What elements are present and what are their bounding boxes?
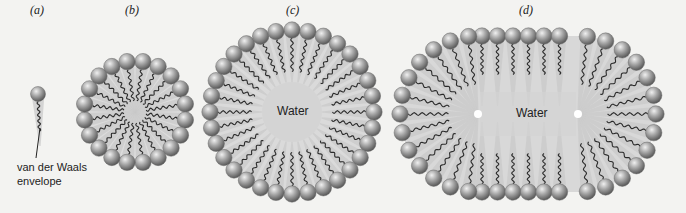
polar-head-group: [268, 23, 284, 39]
water-label-d: Water: [516, 106, 548, 120]
polar-head-group: [360, 72, 376, 88]
polar-head-group: [392, 106, 408, 122]
polar-head-group: [551, 28, 567, 44]
polar-head-group: [536, 184, 552, 200]
polar-head-group: [315, 28, 331, 44]
polar-head-group: [177, 112, 193, 128]
polar-head-group: [394, 87, 410, 103]
polar-head-group: [300, 184, 316, 200]
polar-head-group: [119, 53, 135, 69]
polar-head-group: [150, 149, 166, 165]
polar-head-group: [135, 154, 151, 170]
convergence-point-right: [574, 110, 582, 118]
polar-head-group: [76, 96, 92, 112]
panel-b-micelle: [76, 53, 193, 170]
panel-a-single-lipid: [31, 87, 46, 159]
polar-head-group: [76, 112, 92, 128]
polar-head-group: [300, 23, 316, 39]
annotation-line-2: envelope: [17, 174, 87, 188]
polar-head-group: [489, 28, 505, 44]
polar-head-group: [252, 180, 268, 196]
lipid-aggregates-diagram: [0, 0, 686, 213]
polar-head-group: [329, 172, 345, 188]
annotation-line-1: van der Waals: [17, 160, 87, 174]
polar-head-group: [442, 33, 458, 49]
polar-head-group: [520, 28, 536, 44]
polar-head-group: [360, 135, 376, 151]
polar-head-group: [536, 28, 552, 44]
polar-head-group: [366, 104, 382, 120]
polar-head-group: [579, 183, 595, 199]
polar-head-group: [579, 28, 595, 44]
polar-head-group: [401, 70, 417, 86]
panel-label-c: (c): [286, 3, 299, 18]
polar-head-group: [268, 184, 284, 200]
polar-head-group: [284, 186, 300, 202]
polar-head-group: [489, 184, 505, 200]
polar-head-group: [505, 184, 521, 200]
polar-head-group: [252, 28, 268, 44]
polar-head-group: [442, 179, 458, 195]
polar-head-group: [401, 142, 417, 158]
polar-head-group: [135, 53, 151, 69]
polar-head-group: [119, 154, 135, 170]
diagram-stage: (a) (b) (c) (d) van der Waals envelope W…: [0, 0, 686, 213]
polar-head-group: [639, 70, 655, 86]
polar-head-group: [203, 88, 219, 104]
polar-head-group: [81, 127, 97, 143]
van-der-waals-envelope-label: van der Waals envelope: [17, 160, 87, 188]
panel-label-a: (a): [30, 3, 44, 18]
polar-head-group: [628, 158, 644, 174]
polar-head-group: [597, 33, 613, 49]
polar-head-group: [551, 184, 567, 200]
polar-head-group: [31, 87, 46, 102]
polar-head-group: [639, 142, 655, 158]
polar-head-group: [203, 120, 219, 136]
polar-head-group: [520, 184, 536, 200]
polar-head-group: [646, 124, 662, 140]
polar-head-group: [411, 54, 427, 70]
polar-head-group: [238, 36, 254, 52]
polar-head-group: [172, 81, 188, 97]
polar-head-group: [177, 96, 193, 112]
polar-head-group: [460, 183, 476, 199]
polar-head-group: [104, 58, 120, 74]
polar-head-group: [208, 135, 224, 151]
polar-head-group: [425, 42, 441, 58]
polar-head-group: [284, 22, 300, 38]
polar-head-group: [505, 28, 521, 44]
polar-head-group: [460, 28, 476, 44]
polar-head-group: [315, 180, 331, 196]
polar-head-group: [425, 170, 441, 186]
panel-label-d: (d): [519, 3, 533, 18]
polar-head-group: [597, 179, 613, 195]
panel-label-b: (b): [125, 3, 139, 18]
polar-head-group: [364, 120, 380, 136]
polar-head-group: [352, 58, 368, 74]
polar-head-group: [202, 104, 218, 120]
polar-head-group: [216, 149, 232, 165]
polar-head-group: [411, 158, 427, 174]
polar-head-group: [208, 72, 224, 88]
polar-head-group: [648, 106, 664, 122]
polar-head-group: [614, 170, 630, 186]
convergence-point-left: [474, 110, 482, 118]
water-label-c: Water: [277, 104, 309, 118]
polar-head-group: [614, 42, 630, 58]
polar-head-group: [628, 54, 644, 70]
polar-head-group: [646, 87, 662, 103]
polar-head-group: [394, 124, 410, 140]
polar-head-group: [364, 88, 380, 104]
